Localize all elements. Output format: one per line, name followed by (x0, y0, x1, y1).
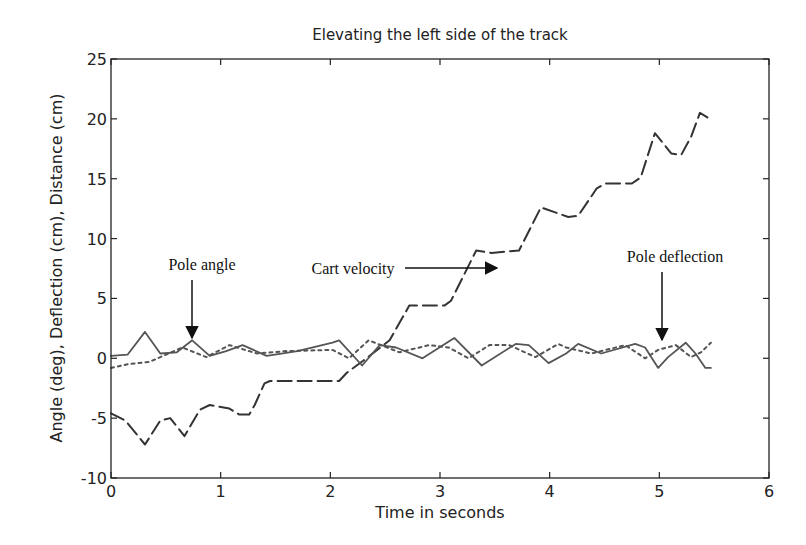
y-axis-label: Angle (deg), Deflection (cm), Distance (… (47, 94, 66, 443)
y-tick-label: 10 (87, 230, 107, 249)
pole-deflection-label: Pole deflection (627, 248, 723, 265)
annotation-pole-angle: Pole angle (168, 256, 235, 338)
y-tick-label: 15 (87, 170, 107, 189)
x-tick-label: 3 (435, 482, 445, 501)
x-tick-label: 5 (654, 482, 664, 501)
x-tick-label: 6 (764, 482, 774, 501)
series-distance-cart (111, 113, 710, 445)
y-tick-label: 20 (87, 110, 107, 129)
plot-series (111, 113, 711, 445)
x-tick-label: 2 (325, 482, 335, 501)
y-tick-label: -10 (81, 469, 107, 488)
y-tick-label: -5 (91, 409, 107, 428)
y-tick-label: 0 (97, 349, 107, 368)
cart-velocity-label: Cart velocity (311, 260, 394, 278)
y-tick-label: 5 (97, 289, 107, 308)
x-tick-label: 0 (106, 482, 116, 501)
x-tick-label: 4 (545, 482, 555, 501)
annotation-pole-deflection: Pole deflection (627, 248, 723, 340)
axis-ticks: 0123456-10-50510152025 (81, 50, 774, 501)
chart-title: Elevating the left side of the track (312, 26, 568, 44)
chart: Elevating the left side of the track 012… (0, 0, 806, 545)
y-tick-label: 25 (87, 50, 107, 69)
pole-angle-label: Pole angle (168, 256, 235, 274)
x-tick-label: 1 (216, 482, 226, 501)
x-axis-label: Time in seconds (374, 503, 504, 522)
